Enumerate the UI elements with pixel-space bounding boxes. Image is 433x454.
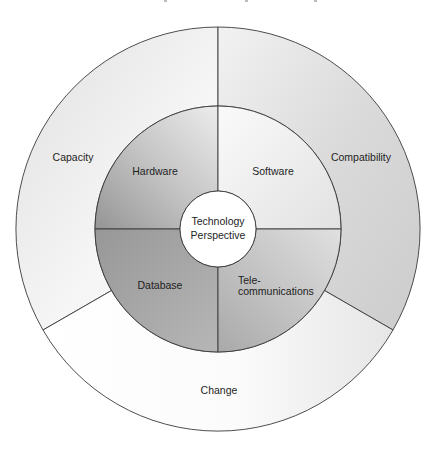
label-telecommunications-line2: communications	[238, 285, 314, 297]
center-label-line2: Perspective	[191, 229, 246, 241]
label-software: Software	[252, 165, 294, 177]
center-label-line1: Technology	[191, 215, 245, 227]
label-change: Change	[201, 384, 238, 396]
label-compatibility: Compatibility	[331, 151, 392, 163]
technology-perspective-diagram: Technology Perspective Hardware Software…	[0, 0, 433, 454]
label-capacity: Capacity	[53, 151, 95, 163]
label-hardware: Hardware	[132, 165, 178, 177]
label-database: Database	[138, 279, 183, 291]
